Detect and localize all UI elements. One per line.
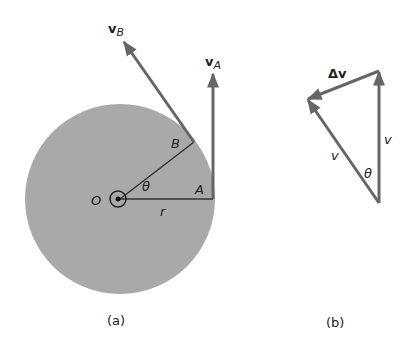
label-v-left: v <box>331 148 339 163</box>
label-a: A <box>194 182 204 197</box>
vector-v-left <box>308 100 379 203</box>
figure-a: O r θ A B vA vB (a) <box>25 21 221 328</box>
label-delta-v: Δv <box>328 66 347 81</box>
axis-dot-icon <box>116 197 121 202</box>
figure-b: Δv v v θ (b) <box>308 66 392 330</box>
label-b: B <box>171 136 180 151</box>
kinematics-diagram: O r θ A B vA vB (a) Δv v v θ (b) <box>0 0 411 347</box>
label-v-right: v <box>384 132 392 147</box>
label-v-b: vB <box>108 21 124 39</box>
label-theta-a: θ <box>142 179 150 194</box>
label-v-a: vA <box>205 54 221 72</box>
label-theta-b: θ <box>364 166 372 181</box>
label-o: O <box>91 193 101 208</box>
caption-a: (a) <box>107 313 125 328</box>
caption-b: (b) <box>326 315 344 330</box>
